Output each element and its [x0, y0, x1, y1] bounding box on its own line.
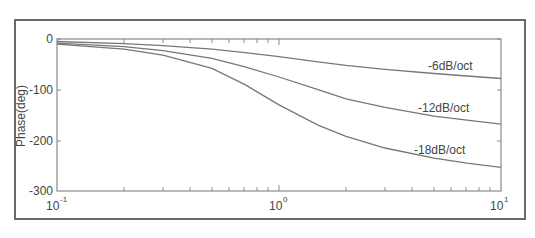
- label-18db-oct: -18dB/oct: [414, 143, 466, 157]
- y-tick-200: -200: [29, 134, 53, 148]
- svg-text:1: 1: [504, 195, 509, 204]
- y-tick-100: -100: [29, 83, 53, 97]
- label-6db-oct: -6dB/oct: [428, 59, 473, 73]
- y-ticks: [57, 39, 501, 141]
- svg-text:10: 10: [269, 199, 283, 213]
- svg-text:-1: -1: [60, 195, 68, 204]
- svg-text:0: 0: [283, 195, 288, 204]
- x-tick-10: 10 1: [490, 195, 509, 213]
- x-tick-1: 10 0: [269, 195, 288, 213]
- y-tick-300: -300: [29, 184, 53, 198]
- svg-text:10: 10: [46, 199, 60, 213]
- svg-text:10: 10: [490, 199, 504, 213]
- label-12db-oct: -12dB/oct: [418, 101, 470, 115]
- phase-chart: -6dB/oct -12dB/oct -18dB/oct 0 -100 -200…: [0, 0, 535, 238]
- y-axis-title: Phase(deg): [14, 85, 28, 147]
- y-tick-0: 0: [46, 32, 53, 46]
